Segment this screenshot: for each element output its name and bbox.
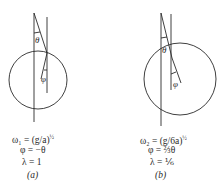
panel-label-b: (b)	[155, 170, 166, 181]
theta-label-a: θ	[35, 36, 39, 45]
phi-arc-tick	[171, 72, 176, 74]
disc	[9, 51, 67, 109]
omega-equation-a: ω₁ = (g/a)½	[12, 132, 54, 146]
lambda-equation-a: λ = 1	[22, 157, 41, 168]
theta-arc-tick	[161, 37, 167, 38]
theta-arc-tick	[34, 32, 40, 33]
omega-text-a: ω₁ = (g/a)	[12, 135, 50, 145]
phi-equation-b: φ = ⅔θ	[148, 145, 175, 156]
phi-label-b: φ	[173, 80, 178, 89]
omega-exponent-b: ½	[182, 135, 187, 141]
phi-label-a: φ	[41, 75, 46, 84]
phi-equation-a: φ = −θ	[20, 145, 46, 156]
panel-label-a: (a)	[27, 170, 38, 181]
lambda-equation-b: λ = ⅙	[150, 157, 174, 168]
theta-label-b: θ	[162, 46, 166, 55]
figure-b-drawing	[144, 13, 216, 126]
omega-exponent-a: ½	[50, 134, 55, 140]
figure-a-drawing	[9, 13, 67, 122]
